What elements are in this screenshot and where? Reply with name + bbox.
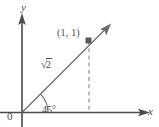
point-coordinate-label: (1, 1)	[57, 28, 80, 38]
radical-argument: 2	[46, 58, 52, 70]
origin-label: 0	[7, 111, 13, 122]
math-diagram: y x 0 (1, 1) 45° √2	[0, 0, 159, 127]
vector-ray-line	[22, 31, 104, 113]
y-axis-label: y	[21, 2, 26, 13]
diagram-canvas	[0, 0, 159, 127]
x-axis-label: x	[148, 106, 153, 117]
segment-length-label: √2	[41, 59, 52, 70]
point-marker	[86, 38, 92, 44]
angle-measure-label: 45°	[42, 105, 56, 115]
